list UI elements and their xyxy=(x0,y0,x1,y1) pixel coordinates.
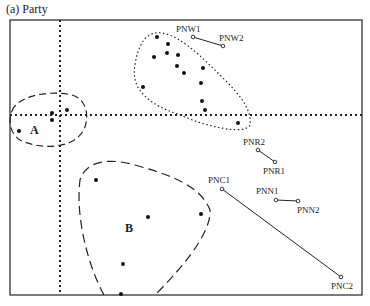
point-label-pnw2: PNW2 xyxy=(219,33,244,43)
data-point xyxy=(182,71,186,75)
data-point xyxy=(94,178,98,182)
point-label-pnw1: PNW1 xyxy=(176,24,201,34)
cluster-a-boundary xyxy=(10,93,87,146)
party-diagram: PNW1PNW2PNR2PNR1PNC1PNC2PNN1PNN2 A B xyxy=(0,0,370,306)
open-point-pnw2 xyxy=(221,44,225,48)
open-point-pnc2 xyxy=(339,275,343,279)
paired-points: PNW1PNW2PNR2PNR1PNC1PNC2PNN1PNN2 xyxy=(176,24,353,291)
data-point xyxy=(165,51,169,55)
data-point xyxy=(146,215,150,219)
pair-connector xyxy=(276,200,298,201)
open-point-pnn1 xyxy=(274,198,278,202)
data-point xyxy=(175,64,179,68)
data-point xyxy=(65,108,69,112)
data-point xyxy=(17,129,21,133)
open-point-pnr2 xyxy=(256,148,260,152)
cluster-b-boundary xyxy=(79,161,210,295)
data-point xyxy=(50,118,54,122)
data-point xyxy=(236,121,240,125)
pair-connector xyxy=(258,150,275,162)
data-point xyxy=(203,108,207,112)
data-point xyxy=(141,85,145,89)
cluster-b-label: B xyxy=(125,221,133,235)
cluster-a-label: A xyxy=(30,123,39,137)
pair-connector xyxy=(222,189,341,277)
open-point-pnc1 xyxy=(220,187,224,191)
point-label-pnc2: PNC2 xyxy=(331,281,353,291)
data-point xyxy=(119,292,123,296)
point-label-pnn1: PNN1 xyxy=(256,186,279,196)
data-point xyxy=(152,55,156,59)
data-point xyxy=(50,111,54,115)
open-point-pnw1 xyxy=(191,35,195,39)
data-point xyxy=(200,99,204,103)
data-point xyxy=(176,53,180,57)
data-point xyxy=(166,42,170,46)
data-point xyxy=(199,212,203,216)
cluster-points xyxy=(17,35,240,296)
data-point xyxy=(199,81,203,85)
point-label-pnc1: PNC1 xyxy=(208,175,230,185)
data-point xyxy=(201,66,205,70)
point-label-pnn2: PNN2 xyxy=(297,205,320,215)
point-label-pnr2: PNR2 xyxy=(243,137,265,147)
open-point-pnr1 xyxy=(273,160,277,164)
open-point-pnn2 xyxy=(296,199,300,203)
data-point xyxy=(155,35,159,39)
point-label-pnr1: PNR1 xyxy=(263,166,285,176)
data-point xyxy=(121,262,125,266)
